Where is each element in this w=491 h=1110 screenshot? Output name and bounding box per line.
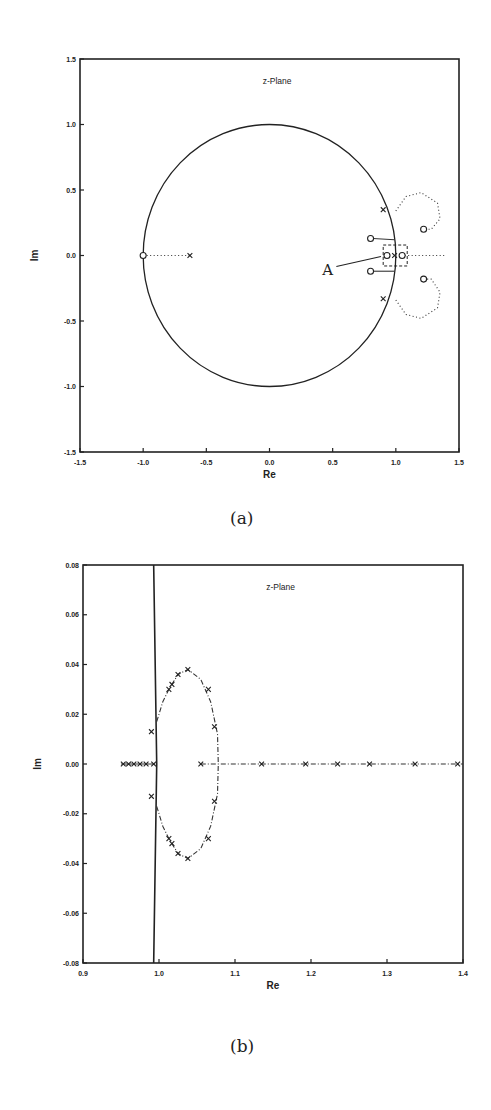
pole-marker — [176, 672, 181, 677]
locus-upper-arc — [157, 669, 219, 764]
pole-marker — [176, 851, 181, 856]
zero-marker — [140, 253, 146, 259]
x-tick-label: 1.0 — [391, 459, 401, 466]
pole-marker — [188, 253, 193, 258]
y-tick-label: -0.04 — [63, 860, 79, 867]
pole-marker — [381, 296, 386, 301]
y-tick-label: 1.5 — [66, 56, 76, 63]
zero-marker — [368, 268, 374, 274]
caption-b: (b) — [230, 1036, 254, 1056]
pole-marker — [185, 856, 190, 861]
plot-title: z-Plane — [263, 76, 292, 86]
zero-marker — [421, 226, 427, 232]
pole-marker — [170, 841, 175, 846]
pole-marker — [149, 794, 154, 799]
unit-circle — [143, 125, 396, 387]
pole-marker — [149, 729, 154, 734]
pole-marker — [335, 762, 340, 767]
zero-marker — [368, 235, 374, 241]
y-tick-label: 0.5 — [66, 187, 76, 194]
x-tick-label: 0.9 — [78, 970, 88, 977]
locus-upper-short — [373, 238, 394, 239]
plot-a-z-plane: -1.5-1.0-0.50.00.51.01.51.51.00.50.0-0.5… — [29, 56, 464, 481]
y-tick-label: -1.5 — [64, 449, 76, 456]
y-tick-label: 0.0 — [66, 252, 76, 259]
y-tick-label: 0.00 — [65, 761, 79, 768]
x-tick-label: 1.5 — [454, 459, 464, 466]
zero-marker — [384, 253, 390, 259]
y-tick-label: -0.06 — [63, 910, 79, 917]
plot-title: z-Plane — [266, 582, 295, 592]
y-tick-label: 0.02 — [65, 711, 79, 718]
y-tick-label: 0.04 — [65, 661, 79, 668]
figure-canvas: -1.5-1.0-0.50.00.51.01.51.51.00.50.0-0.5… — [0, 0, 491, 1110]
annotation-arrow — [336, 257, 381, 267]
plot-area — [140, 125, 446, 387]
y-axis-label: Im — [29, 250, 40, 262]
zero-marker — [399, 253, 405, 259]
y-tick-label: -0.02 — [63, 810, 79, 817]
locus-lower-arc — [157, 764, 219, 859]
pole-marker — [185, 667, 190, 672]
zero-marker — [421, 276, 427, 282]
y-tick-label: -0.08 — [63, 960, 79, 967]
pole-marker — [206, 687, 211, 692]
x-tick-label: 1.1 — [230, 970, 240, 977]
y-axis-label: Im — [32, 758, 43, 770]
x-tick-label: 1.2 — [306, 970, 316, 977]
pole-marker — [455, 762, 460, 767]
caption-a: (a) — [230, 508, 253, 528]
x-tick-label: 1.3 — [382, 970, 392, 977]
x-tick-label: -0.5 — [200, 459, 212, 466]
pole-marker — [206, 836, 211, 841]
x-tick-label: 1.0 — [154, 970, 164, 977]
x-axis-label: Re — [263, 469, 276, 480]
x-tick-label: 0.5 — [328, 459, 338, 466]
y-tick-label: 0.06 — [65, 611, 79, 618]
y-tick-label: -0.5 — [64, 318, 76, 325]
plot-b-z-plane-zoom: 0.91.01.11.21.31.40.080.060.040.020.00-0… — [32, 562, 468, 992]
x-tick-label: 0.0 — [265, 459, 275, 466]
locus-lower-loop — [396, 279, 440, 318]
x-axis-label: Re — [267, 980, 280, 991]
y-tick-label: -1.0 — [64, 383, 76, 390]
y-tick-label: 0.08 — [65, 562, 79, 569]
pole-marker — [166, 687, 171, 692]
x-tick-label: -1.0 — [137, 459, 149, 466]
x-tick-label: 1.4 — [458, 970, 468, 977]
annotation-label: A — [321, 261, 333, 279]
y-tick-label: 1.0 — [66, 121, 76, 128]
plot-area — [121, 565, 463, 963]
pole-marker — [381, 207, 386, 212]
pole-marker — [212, 724, 217, 729]
locus-upper-loop — [396, 193, 440, 230]
pole-marker — [170, 682, 175, 687]
pole-marker — [212, 799, 217, 804]
pole-marker — [166, 836, 171, 841]
x-tick-label: -1.5 — [74, 459, 86, 466]
